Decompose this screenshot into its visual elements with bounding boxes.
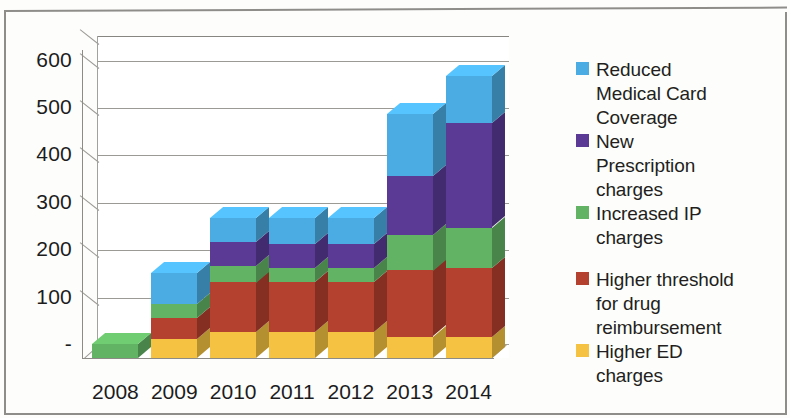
bar-segment-2010-reduced-medical-card-coverage[interactable]: [210, 218, 256, 242]
bar-segment-2010-higher-ed-charges[interactable]: [210, 332, 256, 358]
bar-segment-2014-new-prescription-charges[interactable]: [446, 123, 492, 227]
x-axis-label-2010: 2010: [202, 381, 264, 402]
x-axis-label-2009: 2009: [143, 381, 205, 402]
bar-2009[interactable]: [151, 0, 197, 1]
bar-segment-2012-higher-threshold-for-drug-reimbursement[interactable]: [328, 282, 374, 332]
x-axis-label-2008: 2008: [84, 381, 146, 402]
legend-item-label: Higher threshold for drug reimbursement: [596, 268, 734, 340]
bar-segment-2012-new-prescription-charges[interactable]: [328, 244, 374, 268]
y-axis-tick-label: -: [14, 333, 72, 354]
bar-segment-2013-new-prescription-charges[interactable]: [387, 176, 433, 235]
chart-page: -100200300400500600 20082009201020112012…: [0, 0, 790, 418]
bar-2012[interactable]: [328, 0, 374, 1]
x-axis-label-2013: 2013: [379, 381, 441, 402]
chart-plot-area: -100200300400500600 20082009201020112012…: [0, 0, 565, 418]
legend-swatch-icon-new-prescription-charges: [576, 134, 589, 147]
bar-segment-2012-higher-ed-charges[interactable]: [328, 332, 374, 358]
bar-segment-2013-higher-ed-charges[interactable]: [387, 337, 433, 358]
y-axis-tick-label: 200: [14, 238, 72, 259]
bar-segment-2012-increased-ip-charges[interactable]: [328, 268, 374, 282]
bar-segment-2009-increased-ip-charges[interactable]: [151, 304, 197, 318]
y-axis-tick-label: 600: [14, 49, 72, 70]
bar-segment-2009-higher-ed-charges[interactable]: [151, 339, 197, 358]
chart-legend: Reduced Medical Card CoverageNew Prescri…: [576, 58, 784, 388]
bar-2011[interactable]: [269, 0, 315, 1]
legend-item-higher-threshold-for-drug-reimbursement[interactable]: Higher threshold for drug reimbursement: [576, 268, 784, 340]
bar-segment-side-face: [492, 257, 505, 337]
bar-segment-2009-reduced-medical-card-coverage[interactable]: [151, 273, 197, 304]
bar-segment-2014-higher-threshold-for-drug-reimbursement[interactable]: [446, 268, 492, 337]
bar-segment-2011-reduced-medical-card-coverage[interactable]: [269, 218, 315, 244]
gridline: [97, 61, 509, 62]
legend-item-new-prescription-charges[interactable]: New Prescription charges: [576, 130, 784, 202]
legend-item-higher-ed-charges[interactable]: Higher ED charges: [576, 340, 784, 388]
y-axis-line: [82, 50, 83, 358]
bar-segment-2010-higher-threshold-for-drug-reimbursement[interactable]: [210, 282, 256, 332]
y-axis-back-edge: [97, 36, 98, 344]
bar-segment-side-face: [433, 103, 446, 176]
x-axis-label-2012: 2012: [320, 381, 382, 402]
x-axis-label-2011: 2011: [261, 381, 323, 402]
legend-item-label: Higher ED charges: [596, 340, 683, 388]
y-axis-tick-label: 300: [14, 191, 72, 212]
bar-segment-2014-reduced-medical-card-coverage[interactable]: [446, 76, 492, 123]
bar-segment-2008-increased-ip-charges[interactable]: [92, 344, 138, 358]
y-axis-tick-label: 500: [14, 96, 72, 117]
legend-item-label: Reduced Medical Card Coverage: [596, 58, 707, 130]
legend-swatch-icon-increased-ip-charges: [576, 206, 589, 219]
bar-2010[interactable]: [210, 0, 256, 1]
bar-segment-2013-reduced-medical-card-coverage[interactable]: [387, 114, 433, 176]
bar-segment-2013-higher-threshold-for-drug-reimbursement[interactable]: [387, 270, 433, 336]
bar-segment-2011-higher-threshold-for-drug-reimbursement[interactable]: [269, 282, 315, 332]
legend-item-reduced-medical-card-coverage[interactable]: Reduced Medical Card Coverage: [576, 58, 784, 130]
bar-segment-2011-new-prescription-charges[interactable]: [269, 244, 315, 268]
bar-segment-2011-increased-ip-charges[interactable]: [269, 268, 315, 282]
y-axis-tick-label: 400: [14, 143, 72, 164]
bar-segment-side-face: [433, 165, 446, 235]
bar-segment-2014-increased-ip-charges[interactable]: [446, 228, 492, 268]
bar-segment-2013-increased-ip-charges[interactable]: [387, 235, 433, 271]
y-axis-tick-label: 100: [14, 286, 72, 307]
x-axis-label-2014: 2014: [438, 381, 500, 402]
bar-segment-side-face: [433, 259, 446, 336]
page-border-right: [785, 12, 787, 415]
legend-item-increased-ip-charges[interactable]: Increased IP charges: [576, 202, 784, 250]
legend-item-label: New Prescription charges: [596, 130, 695, 202]
bar-segment-2014-higher-ed-charges[interactable]: [446, 337, 492, 358]
bar-segment-side-face: [492, 113, 505, 228]
legend-swatch-icon-higher-threshold-for-drug-reimbursement: [576, 272, 589, 285]
legend-swatch-icon-reduced-medical-card-coverage: [576, 62, 589, 75]
bar-segment-2010-increased-ip-charges[interactable]: [210, 266, 256, 283]
bar-segment-2009-higher-threshold-for-drug-reimbursement[interactable]: [151, 318, 197, 339]
x-axis-tick-labels: 2008200920102011201220132014: [82, 381, 522, 409]
bar-2013[interactable]: [387, 0, 433, 1]
bar-segment-2010-new-prescription-charges[interactable]: [210, 242, 256, 266]
y-axis-tick-labels: -100200300400500600: [8, 0, 72, 418]
bar-segment-2012-reduced-medical-card-coverage[interactable]: [328, 218, 374, 244]
bar-2014[interactable]: [446, 0, 492, 1]
legend-swatch-icon-higher-ed-charges: [576, 344, 589, 357]
legend-item-label: Increased IP charges: [596, 202, 701, 250]
bar-segment-2011-higher-ed-charges[interactable]: [269, 332, 315, 358]
bar-2008[interactable]: [92, 0, 138, 1]
